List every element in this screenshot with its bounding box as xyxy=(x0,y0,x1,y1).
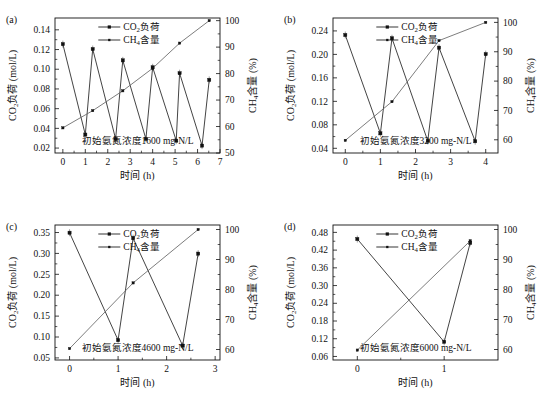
y-tick-label: 0.10 xyxy=(33,64,50,74)
x-axis-title: 时间 (h) xyxy=(398,169,432,182)
data-point-marker xyxy=(121,59,124,62)
legend-entry-label: CO2负荷 xyxy=(401,21,438,33)
y2-tick-label: 60 xyxy=(225,345,235,355)
legend-entry-label: CO2负荷 xyxy=(401,228,438,240)
data-point-marker xyxy=(474,140,477,143)
x-tick-label: 3 xyxy=(213,364,218,374)
y-tick-label: 0.12 xyxy=(33,45,50,55)
y-axis-title: CO2负荷 (mol/L) xyxy=(284,50,297,121)
y-tick-label: 0.04 xyxy=(311,144,328,154)
y-tick-label: 0.06 xyxy=(311,352,328,362)
y2-tick-label: 90 xyxy=(225,42,235,52)
y-tick-label: 0.04 xyxy=(33,124,50,134)
y-tick-label: 0.42 xyxy=(311,245,328,255)
plot-area: 0.060.120.180.240.300.360.420.4860708090… xyxy=(278,207,555,413)
x-tick-label: 1 xyxy=(116,364,121,374)
data-point-marker xyxy=(197,252,200,255)
y-tick-label: 0.15 xyxy=(33,311,50,321)
data-point-marker xyxy=(61,43,64,46)
data-point-marker xyxy=(391,100,393,102)
data-point-marker xyxy=(356,237,359,240)
x-tick-label: 0 xyxy=(343,157,348,167)
y-tick-label: 0.35 xyxy=(33,228,50,238)
panel-annotation: 初始氨氮浓度6000 mg-N/L xyxy=(360,342,472,353)
x-tick-label: 0 xyxy=(67,364,72,374)
y2-tick-label: 60 xyxy=(503,345,513,355)
x-axis-title: 时间 (h) xyxy=(398,376,432,389)
y2-tick-label: 80 xyxy=(503,285,513,295)
x-tick-label: 7 xyxy=(218,157,223,167)
plot-area: 0.050.100.150.200.250.300.35607080901000… xyxy=(0,207,277,413)
x-tick-label: 1 xyxy=(378,157,383,167)
data-point-marker xyxy=(208,78,211,81)
y2-axis-title: CH4含量 (%) xyxy=(246,265,259,320)
x-tick-label: 5 xyxy=(173,157,178,167)
x-tick-label: 2 xyxy=(105,157,110,167)
data-point-marker xyxy=(132,282,134,284)
y-tick-label: 0.16 xyxy=(311,73,328,83)
data-point-marker xyxy=(68,347,70,349)
data-point-marker xyxy=(356,349,358,351)
panel-a: (a)0.020.040.060.080.100.120.14506070809… xyxy=(0,0,277,206)
y2-tick-label: 90 xyxy=(225,255,235,265)
y2-tick-label: 90 xyxy=(503,255,513,265)
legend-entry-label: CH4含量 xyxy=(401,241,438,253)
y-axis-title: CO2负荷 (mol/L) xyxy=(284,257,297,328)
y-tick-label: 0.10 xyxy=(33,332,50,342)
y2-tick-label: 80 xyxy=(225,285,235,295)
x-tick-label: 2 xyxy=(413,157,418,167)
y-tick-label: 0.12 xyxy=(311,97,328,107)
series-line xyxy=(357,239,470,342)
y2-tick-label: 100 xyxy=(503,18,518,28)
y-tick-label: 0.30 xyxy=(311,281,328,291)
panel-annotation: 初始氨氮浓度3200 mg-N/L xyxy=(360,135,472,146)
legend-entry-label: CO2负荷 xyxy=(123,21,160,33)
y-tick-label: 0.08 xyxy=(311,120,328,130)
y2-tick-label: 100 xyxy=(503,225,518,235)
x-tick-label: 0 xyxy=(60,157,65,167)
y2-tick-label: 50 xyxy=(225,148,235,158)
y2-tick-label: 70 xyxy=(503,315,513,325)
x-tick-label: 3 xyxy=(448,157,453,167)
y-tick-label: 0.24 xyxy=(311,298,328,308)
y2-tick-label: 80 xyxy=(225,69,235,79)
data-point-marker xyxy=(208,19,210,21)
data-point-marker xyxy=(344,139,346,141)
x-axis-title: 时间 (h) xyxy=(120,169,154,182)
y-tick-label: 0.48 xyxy=(311,228,328,238)
y2-tick-label: 70 xyxy=(503,106,513,116)
y2-tick-label: 70 xyxy=(225,95,235,105)
x-tick-label: 4 xyxy=(150,157,155,167)
data-point-marker xyxy=(379,132,382,135)
x-tick-label: 1 xyxy=(442,364,447,374)
x-tick-label: 6 xyxy=(195,157,200,167)
y2-tick-label: 70 xyxy=(225,315,235,325)
data-point-marker xyxy=(178,72,181,75)
figure-container: (a)0.020.040.060.080.100.120.14506070809… xyxy=(0,0,555,413)
data-point-marker xyxy=(437,46,440,49)
plot-area: 0.020.040.060.080.100.120.14506070809010… xyxy=(0,0,277,206)
y-tick-label: 0.20 xyxy=(311,50,328,60)
data-point-marker xyxy=(62,127,64,129)
y-tick-label: 0.02 xyxy=(33,143,50,153)
y-tick-label: 0.24 xyxy=(311,26,328,36)
series-line xyxy=(63,44,209,145)
panel-c: (c)0.050.100.150.200.250.300.35607080901… xyxy=(0,207,277,413)
y-tick-label: 0.14 xyxy=(33,25,50,35)
panel-b: (b)0.040.080.120.160.200.246070809010001… xyxy=(278,0,555,206)
legend-entry-label: CH4含量 xyxy=(401,34,438,46)
y-axis-title: CO2负荷 (mol/L) xyxy=(6,257,19,328)
y-tick-label: 0.30 xyxy=(33,249,50,259)
x-tick-label: 1 xyxy=(83,157,88,167)
legend-entry-label: CO2负荷 xyxy=(123,228,160,240)
data-point-marker xyxy=(122,90,124,92)
y-tick-label: 0.25 xyxy=(33,270,50,280)
y2-axis-title: CH4含量 (%) xyxy=(524,58,537,113)
y-tick-label: 0.36 xyxy=(311,263,328,273)
data-point-marker xyxy=(178,42,180,44)
x-tick-label: 3 xyxy=(128,157,133,167)
legend-entry-label: CH4含量 xyxy=(123,241,160,253)
y2-tick-label: 90 xyxy=(503,47,513,57)
data-point-marker xyxy=(116,339,119,342)
y-axis-title: CO2负荷 (mol/L) xyxy=(6,50,19,121)
